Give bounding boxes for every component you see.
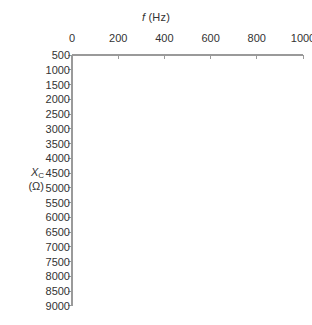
y-tick-label: 1500	[46, 79, 70, 91]
y-tick-label: 7000	[46, 241, 70, 253]
y-tick-label: 1000	[46, 64, 70, 76]
x-tick-label: 800	[248, 32, 266, 44]
y-tick-label: 2000	[46, 93, 70, 105]
y-tick-label: 500	[52, 49, 70, 61]
reactance-vs-frequency-chart: f (Hz) XC (Ω) 02004006008001000 50010001…	[0, 0, 312, 325]
x-tick-label: 600	[201, 32, 219, 44]
y-tick-label: 4000	[46, 152, 70, 164]
y-tick-label: 7500	[46, 256, 70, 268]
y-tick-label: 3000	[46, 123, 70, 135]
y-tick-label: 6000	[46, 211, 70, 223]
y-tick-label: 3500	[46, 138, 70, 150]
y-tick-label: 5000	[46, 182, 70, 194]
y-tick-label: 5500	[46, 197, 70, 209]
x-tick-label: 200	[109, 32, 127, 44]
plot-area[interactable]	[72, 55, 303, 306]
y-tick-label: 8500	[46, 285, 70, 297]
y-tick-label: 9000	[46, 300, 70, 312]
x-tick-label: 1000	[291, 32, 312, 44]
x-tick-label: 400	[155, 32, 173, 44]
y-tick-label: 2500	[46, 108, 70, 120]
x-tick-label: 0	[69, 32, 75, 44]
y-tick-label: 8000	[46, 270, 70, 282]
y-tick-label: 4500	[46, 167, 70, 179]
y-tick-label: 6500	[46, 226, 70, 238]
